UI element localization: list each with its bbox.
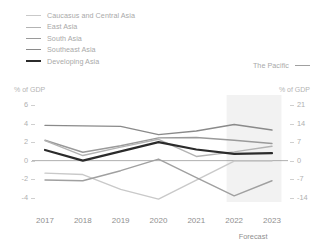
- right-tick-label: -7: [297, 174, 317, 183]
- gdp-line-chart: Caucasus and Central AsiaEast AsiaSouth …: [0, 0, 318, 250]
- right-tick-label: -14: [297, 193, 317, 202]
- x-tick-label: 2021: [181, 216, 211, 225]
- legend-item-label: Caucasus and Central Asia: [47, 10, 135, 21]
- legend-item-label: Southeast Asia: [47, 44, 96, 55]
- left-tick-mark: [31, 142, 35, 143]
- x-tick-label: 2022: [219, 216, 249, 225]
- legend-item[interactable]: Developing Asia: [26, 56, 135, 67]
- legend-item[interactable]: South Asia: [26, 33, 135, 44]
- right-tick-label: 21: [297, 100, 317, 109]
- x-tick-label: 2020: [144, 216, 174, 225]
- left-tick-mark: [31, 105, 35, 106]
- left-tick-label: 4: [14, 119, 28, 128]
- right-tick-mark: [290, 179, 294, 180]
- right-tick-label: 0: [297, 156, 317, 165]
- legend-item-label: East Asia: [47, 21, 77, 32]
- left-tick-mark: [31, 179, 35, 180]
- x-tick-label: 2019: [106, 216, 136, 225]
- legend-item[interactable]: Southeast Asia: [26, 44, 135, 55]
- legend-swatch: [26, 38, 41, 39]
- legend-item-label: South Asia: [47, 33, 82, 44]
- legend-swatch: [26, 27, 41, 28]
- legend-item-label: Developing Asia: [47, 56, 99, 67]
- legend-swatch: [26, 49, 41, 50]
- left-axis-title: % of GDP: [14, 86, 45, 93]
- x-tick-label: 2018: [68, 216, 98, 225]
- right-tick-label: 7: [297, 137, 317, 146]
- chart-legend: Caucasus and Central AsiaEast AsiaSouth …: [26, 10, 135, 67]
- legend-swatch: [26, 15, 41, 16]
- right-tick-mark: [290, 105, 294, 106]
- left-tick-label: 6: [14, 100, 28, 109]
- right-tick-mark: [290, 198, 294, 199]
- plot-area: [0, 95, 318, 210]
- forecast-label: Forecast: [223, 232, 283, 241]
- legend-item[interactable]: Caucasus and Central Asia: [26, 10, 135, 21]
- legend-label-the-pacific: The Pacific: [253, 60, 289, 71]
- left-tick-mark: [31, 124, 35, 125]
- x-tick-label: 2023: [257, 216, 287, 225]
- right-tick-mark: [290, 161, 294, 162]
- right-tick-label: 14: [297, 119, 317, 128]
- right-tick-mark: [290, 124, 294, 125]
- left-tick-label: -2: [14, 174, 28, 183]
- right-tick-mark: [290, 142, 294, 143]
- left-tick-label: 2: [14, 137, 28, 146]
- left-tick-label: -4: [14, 193, 28, 202]
- legend-item[interactable]: East Asia: [26, 21, 135, 32]
- right-axis-title: % of GDP: [279, 86, 310, 93]
- chart-legend-the-pacific: The Pacific: [253, 60, 310, 71]
- left-tick-label: 0: [14, 156, 28, 165]
- legend-swatch-the-pacific: [295, 65, 310, 66]
- x-tick-label: 2017: [30, 216, 60, 225]
- left-tick-mark: [31, 161, 35, 162]
- left-tick-mark: [31, 198, 35, 199]
- legend-swatch: [26, 60, 41, 62]
